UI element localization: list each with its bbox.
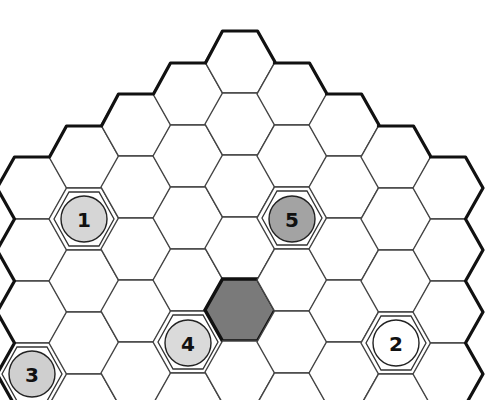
token-3[interactable]: 3 — [9, 351, 55, 397]
token-number: 3 — [25, 363, 39, 387]
token-number: 2 — [389, 332, 403, 356]
hex-board[interactable]: 12345 — [0, 0, 493, 400]
token-1[interactable]: 1 — [61, 196, 107, 242]
token-4[interactable]: 4 — [165, 320, 211, 366]
token-2[interactable]: 2 — [373, 320, 419, 366]
token-number: 4 — [181, 332, 195, 356]
token-number: 1 — [77, 208, 91, 232]
token-number: 5 — [285, 208, 299, 232]
token-5[interactable]: 5 — [269, 196, 315, 242]
